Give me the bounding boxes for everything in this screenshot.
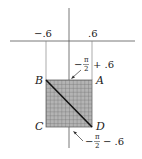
lower-annotation: − π 2 − .6: [73, 131, 124, 150]
corner-label-b: B: [34, 74, 43, 87]
tick-label-neg: −.6: [34, 28, 52, 39]
lower-two: 2: [95, 142, 99, 150]
upper-pi: π: [84, 56, 89, 64]
upper-suffix: + .6: [93, 59, 114, 70]
diagram-canvas: −.6 .6 B A C D − π 2 + .6 − π 2 − .6: [0, 0, 142, 159]
lower-suffix: − .6: [103, 136, 124, 147]
corner-label-a: A: [95, 74, 104, 87]
corner-label-c: C: [35, 120, 44, 133]
upper-two: 2: [84, 65, 88, 73]
corner-label-d: D: [95, 120, 105, 133]
upper-minus: −: [74, 59, 82, 70]
tick-label-pos: .6: [88, 28, 98, 39]
lower-pi: π: [95, 133, 100, 141]
lower-minus: −: [85, 136, 93, 147]
upper-annotation: − π 2 + .6: [71, 56, 114, 79]
